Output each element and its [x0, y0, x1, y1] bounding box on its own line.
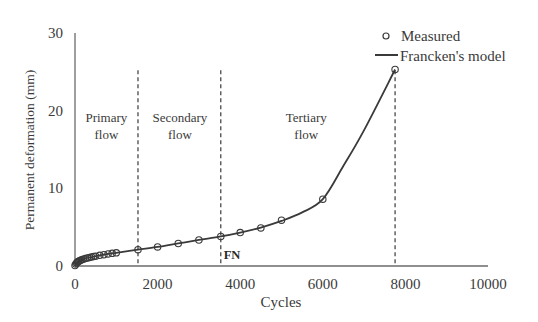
model-line — [75, 70, 395, 266]
measured-series — [72, 66, 398, 269]
legend-model-label: Francken's model — [400, 48, 506, 64]
phase-label-line: Primary — [85, 110, 127, 125]
x-tick-label: 4000 — [225, 276, 255, 292]
y-tick-labels: 0102030 — [48, 25, 63, 274]
phase-label-line: Secondary — [152, 110, 207, 125]
model-series — [75, 70, 395, 266]
x-tick-labels: 0200040006000800010000 — [71, 276, 507, 292]
permanent-deformation-chart: 0200040006000800010000 0102030 Cycles Pe… — [0, 0, 538, 322]
legend-measured-label: Measured — [401, 28, 461, 44]
legend: Measured Francken's model — [375, 28, 506, 64]
fn-label: FN — [224, 248, 241, 262]
axes — [75, 33, 488, 266]
phase-label-line: flow — [294, 127, 318, 142]
y-tick-label: 10 — [48, 180, 63, 196]
y-tick-label: 20 — [48, 103, 63, 119]
legend-measured-marker — [383, 33, 389, 39]
phase-label: Primaryflow — [85, 110, 127, 142]
x-tick-label: 10000 — [469, 276, 507, 292]
y-tick-label: 30 — [48, 25, 63, 41]
phase-label-line: flow — [94, 127, 118, 142]
y-tick-label: 0 — [56, 258, 64, 274]
y-axis-label: Permanent deformation (mm) — [22, 70, 37, 230]
x-tick-label: 0 — [71, 276, 79, 292]
phase-label-line: Tertiary — [286, 110, 327, 125]
phase-boundaries — [138, 70, 395, 266]
phase-label: Tertiaryflow — [286, 110, 327, 142]
phase-label-line: flow — [168, 127, 192, 142]
x-tick-label: 8000 — [390, 276, 420, 292]
x-axis-label: Cycles — [261, 294, 302, 310]
phase-label: Secondaryflow — [152, 110, 207, 142]
x-tick-label: 6000 — [308, 276, 338, 292]
x-tick-label: 2000 — [143, 276, 173, 292]
